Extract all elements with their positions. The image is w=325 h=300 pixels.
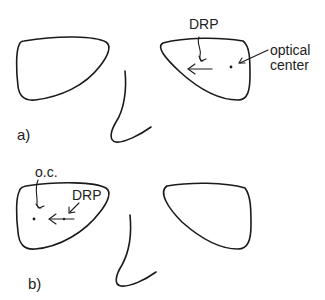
panel-a-left-lens: [17, 37, 109, 100]
panel-a-drp-leader: [198, 37, 203, 61]
panel-a-oc-leader: [240, 50, 268, 63]
panel-b-oc-label: o.c.: [35, 165, 58, 179]
panel-a-optical-center-dot: [230, 66, 233, 69]
panel-a-center-label: center: [270, 58, 309, 72]
eyeglass-diagram: DRP optical center a) o.c. DRP b): [0, 0, 325, 300]
panel-b-drp-label: DRP: [72, 188, 102, 202]
panel-a-optical-label: optical: [270, 43, 310, 57]
panel-a-label: a): [17, 127, 30, 142]
panel-b-right-lens: [164, 183, 251, 249]
panel-b-label: b): [28, 276, 41, 291]
panel-b-drp-leader: [70, 203, 79, 212]
panel-b-oc-dot: [33, 218, 36, 221]
panel-a-drp-label: DRP: [189, 17, 219, 31]
panel-b-nose-bridge: [116, 215, 156, 286]
panel-b-drp-dot: [63, 218, 65, 220]
panel-a-nose-bridge: [111, 71, 151, 142]
